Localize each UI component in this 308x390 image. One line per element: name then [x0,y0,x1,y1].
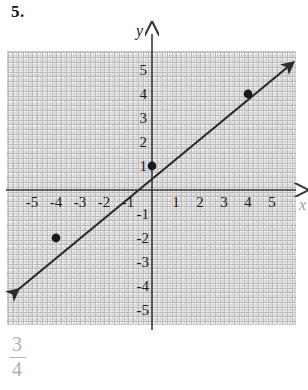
x-tick-label: -3 [74,194,87,211]
worksheet-page: 5. x y -5 -4 -3 -2 -1 1 [0,0,308,390]
y-tick-label: 5 [140,62,148,79]
data-point [52,234,61,243]
y-axis-label: y [136,22,143,40]
x-tick-label: -4 [50,194,63,211]
y-tick-label: 1 [140,158,148,175]
x-tick-label: 5 [268,194,276,211]
y-tick-label: -1 [137,206,150,223]
y-tick-label: -2 [137,230,150,247]
data-point [148,162,157,171]
x-tick-label: -5 [26,194,39,211]
fraction-numerator: 3 [6,334,28,355]
y-tick-label: 3 [140,110,148,127]
x-tick-label: -2 [98,194,111,211]
data-point [244,90,253,99]
x-tick-label: 2 [196,194,204,211]
fraction-denominator: 4 [6,359,28,380]
y-tick-label: -5 [137,302,150,319]
coordinate-plane [0,0,308,390]
y-tick-label: -4 [137,278,150,295]
x-tick-label: 4 [244,194,252,211]
x-axis-label: x [299,196,306,214]
y-tick-label: 2 [140,134,148,151]
y-tick-label: 4 [140,86,148,103]
x-tick-label: 1 [172,194,180,211]
x-tick-label: -1 [122,194,135,211]
answer-fraction: 3 4 [6,334,28,380]
x-tick-label: 3 [220,194,228,211]
y-tick-label: -3 [137,254,150,271]
